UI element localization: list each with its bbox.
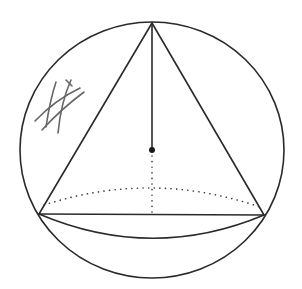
sphere-center-point [149, 147, 155, 153]
cone-left-edge [39, 23, 152, 214]
cone-right-edge [152, 23, 264, 215]
diagram-canvas [0, 0, 302, 289]
base-diameter-line [39, 214, 264, 215]
base-back-arc-hidden [44, 188, 260, 207]
sphere-cone-diagram [0, 0, 302, 289]
scribble-mark [35, 80, 84, 133]
base-front-arc [39, 214, 264, 238]
